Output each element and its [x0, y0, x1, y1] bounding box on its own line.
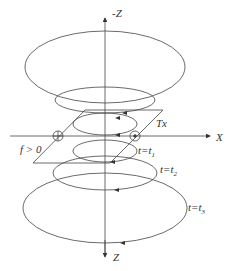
arrow-icon — [122, 111, 127, 115]
x-label: X — [216, 132, 223, 143]
circled-plus-icon — [53, 131, 63, 141]
z-label: Z — [113, 252, 119, 263]
f-positive-label: f > 0 — [20, 144, 41, 155]
time-label-t3: t=t3 — [188, 202, 205, 216]
time-label-t1: t=t1 — [138, 145, 155, 159]
arrow-icon — [120, 241, 125, 245]
arrow-icon — [114, 188, 119, 192]
arrow-icon — [115, 116, 120, 120]
time-label-t2: t=t2 — [160, 164, 177, 178]
neg-z-label: -Z — [112, 8, 122, 19]
diagram-canvas — [0, 0, 239, 271]
tx-label: Tx — [156, 118, 167, 129]
